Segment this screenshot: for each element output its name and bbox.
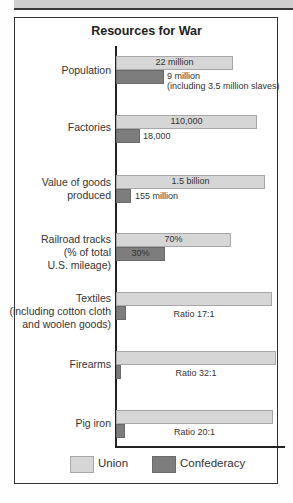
- value-confederacy-factories: 18,000: [143, 131, 171, 142]
- header-bar: [14, 0, 293, 8]
- label-line: Pig iron: [75, 417, 111, 430]
- category-label-textiles: Textiles (including cotton cloth and woo…: [9, 292, 111, 331]
- label-line: U.S. mileage): [41, 259, 111, 272]
- label-line: Textiles: [9, 292, 111, 305]
- legend-label-union: Union: [98, 457, 128, 469]
- header-rule: [14, 8, 293, 10]
- ratio-textiles: Ratio 17:1: [116, 309, 272, 320]
- value-confederacy-value-of-goods: 155 million: [135, 191, 178, 202]
- ratio-pig-iron: Ratio 20:1: [116, 427, 273, 438]
- value-union-railroad: 70%: [116, 234, 231, 245]
- value-union-population: 22 million: [116, 57, 233, 68]
- label-line: (including cotton cloth: [9, 305, 111, 318]
- value-confederacy-population-note: (including 3.5 million slaves): [167, 81, 280, 92]
- bar-union-textiles: [116, 292, 272, 306]
- legend-label-confederacy: Confederacy: [180, 457, 245, 469]
- label-line: and woolen goods): [9, 318, 111, 331]
- value-union-value-of-goods: 1.5 billion: [116, 176, 265, 187]
- label-line: Population: [61, 64, 111, 77]
- bar-confederacy-value-of-goods: [116, 189, 131, 203]
- label-line: Factories: [68, 121, 111, 134]
- label-line: (% of total: [41, 246, 111, 259]
- label-line: Firearms: [70, 358, 111, 371]
- category-label-factories: Factories: [68, 121, 111, 134]
- category-label-value-of-goods: Value of goods produced: [42, 176, 111, 202]
- label-line: Value of goods: [42, 176, 111, 189]
- category-label-firearms: Firearms: [70, 358, 111, 371]
- legend-swatch-union: [70, 456, 94, 473]
- bar-confederacy-factories: [116, 129, 140, 143]
- bar-confederacy-population: [116, 70, 164, 84]
- category-label-pig-iron: Pig iron: [75, 417, 111, 430]
- label-line: Railroad tracks: [41, 233, 111, 246]
- chart-title: Resources for War: [0, 24, 293, 38]
- x-axis-line: [115, 446, 285, 448]
- value-union-factories: 110,000: [116, 116, 257, 127]
- category-label-population: Population: [61, 64, 111, 77]
- label-line: produced: [42, 189, 111, 202]
- bar-union-pig-iron: [116, 410, 273, 424]
- value-confederacy-railroad: 30%: [116, 248, 165, 259]
- legend-swatch-confederacy: [152, 456, 176, 473]
- ratio-firearms: Ratio 32:1: [116, 368, 276, 379]
- category-label-railroad: Railroad tracks (% of total U.S. mileage…: [41, 233, 111, 272]
- bar-union-firearms: [116, 351, 276, 365]
